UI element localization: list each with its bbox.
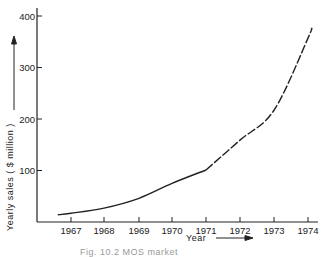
y-tick-label: 200 [19, 114, 35, 125]
y-axis-label: Yearly sales ( $ million ) [5, 71, 15, 231]
projected-sales-line [206, 28, 312, 170]
y-tick-label: 400 [19, 11, 35, 22]
x-axis-arrow-icon [216, 236, 253, 241]
actual-sales-line [58, 170, 206, 215]
x-tick-label: 1973 [263, 225, 284, 236]
figure-caption: Fig. 10.2 MOS market [80, 247, 178, 257]
x-tick-label: 1972 [229, 225, 250, 236]
y-tick-label: 100 [19, 165, 35, 176]
x-tick-label: 1969 [128, 225, 149, 236]
x-tick-label: 1968 [93, 225, 114, 236]
x-tick-label: 1970 [161, 225, 182, 236]
y-ticks: 100200300400 [19, 11, 42, 177]
x-axis-label: Year [186, 233, 206, 243]
x-tick-label: 1967 [60, 225, 81, 236]
y-tick-label: 300 [19, 62, 35, 73]
data-series [58, 28, 312, 215]
axes [37, 8, 318, 222]
x-tick-label: 1974 [297, 225, 318, 236]
y-axis-label-container: Yearly sales ( $ million ) [2, 30, 18, 210]
